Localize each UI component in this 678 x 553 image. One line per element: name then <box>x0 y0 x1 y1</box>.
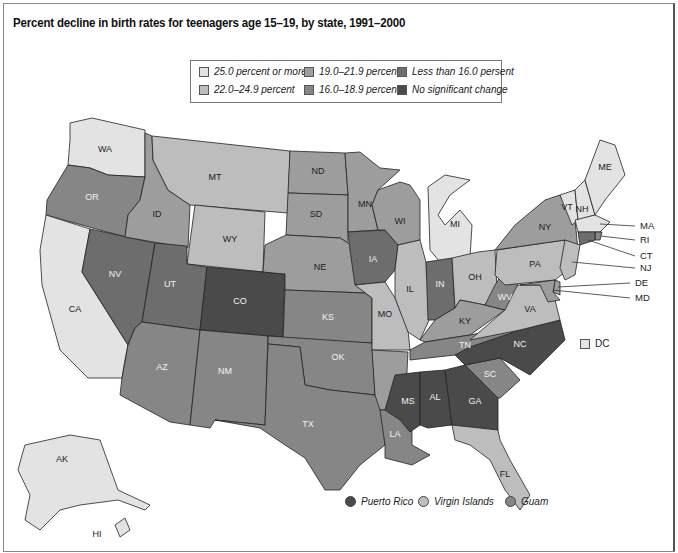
state-label-la: LA <box>389 429 400 439</box>
state-label-wy: WY <box>223 234 238 244</box>
state-label-ga: GA <box>468 396 481 406</box>
state-label-oh: OH <box>468 272 482 282</box>
state-label-wi: WI <box>395 216 406 226</box>
state-nm <box>190 330 268 428</box>
state-label-co: CO <box>233 296 247 306</box>
state-label-tn: TN <box>459 340 471 350</box>
state-label-in: IN <box>436 279 445 289</box>
state-label-ok: OK <box>331 352 344 362</box>
state-ri <box>595 232 602 240</box>
callout-label-md: MD <box>635 292 650 303</box>
state-label-mn: MN <box>358 199 372 209</box>
state-label-az: AZ <box>156 362 168 372</box>
callout-line-de <box>558 283 630 287</box>
callout-label-ri: RI <box>640 234 650 245</box>
state-label-id: ID <box>153 209 163 219</box>
dc-swatch <box>580 339 590 349</box>
state-label-ia: IA <box>369 254 378 264</box>
callout-line-ct <box>588 240 635 256</box>
state-az <box>120 322 200 425</box>
state-label-wv: WV <box>498 292 513 302</box>
state-hi <box>115 518 130 537</box>
callout-label-nj: NJ <box>640 262 652 273</box>
territory-dot <box>418 496 429 507</box>
state-label-nc: NC <box>514 339 527 349</box>
callout-label-ct: CT <box>640 250 653 261</box>
state-label-fl: FL <box>500 469 511 479</box>
state-label-ne: NE <box>314 262 327 272</box>
state-label-ut: UT <box>164 279 176 289</box>
callout-line-md <box>553 290 630 298</box>
state-label-ky: KY <box>459 316 471 326</box>
state-label-ak: AK <box>56 454 68 464</box>
us-map: WAORCANVIDMTWYUTCOAZNMNDSDNEKSOKTXMNIAMO… <box>0 0 678 553</box>
territory-label: Guam <box>521 496 548 507</box>
dc-legend: DC <box>580 338 609 349</box>
state-label-ks: KS <box>322 312 334 322</box>
state-label-mt: MT <box>209 172 222 182</box>
callout-line-nj <box>572 262 635 268</box>
state-ak <box>18 435 150 530</box>
state-label-vt: VT <box>561 202 573 212</box>
callout-label-ma: MA <box>640 220 655 231</box>
state-label-hi: HI <box>93 529 102 539</box>
state-label-mi: MI <box>450 219 460 229</box>
state-label-nd: ND <box>312 166 325 176</box>
state-label-al: AL <box>429 392 440 402</box>
territory-puerto-rico: Puerto Rico <box>345 496 413 507</box>
state-ct <box>578 232 595 245</box>
state-label-nv: NV <box>109 269 122 279</box>
state-label-il: IL <box>406 284 414 294</box>
territory-dot <box>505 496 516 507</box>
state-label-ny: NY <box>539 222 552 232</box>
territory-label: Puerto Rico <box>361 496 413 507</box>
callout-line-ri <box>601 236 635 240</box>
territory-dot <box>345 496 356 507</box>
state-label-ms: MS <box>401 396 415 406</box>
state-label-nh: NH <box>576 204 589 214</box>
state-label-sc: SC <box>484 369 497 379</box>
state-label-ca: CA <box>69 304 82 314</box>
territory-virgin-islands: Virgin Islands <box>418 496 494 507</box>
state-label-va: VA <box>524 304 535 314</box>
dc-label: DC <box>595 338 609 349</box>
state-label-wa: WA <box>98 144 112 154</box>
territory-guam: Guam <box>505 496 548 507</box>
state-label-sd: SD <box>310 209 323 219</box>
state-label-nm: NM <box>218 366 232 376</box>
state-label-me: ME <box>598 162 612 172</box>
territory-label: Virgin Islands <box>434 496 494 507</box>
state-label-pa: PA <box>529 259 540 269</box>
state-label-tx: TX <box>302 419 314 429</box>
state-label-mo: MO <box>378 309 393 319</box>
state-label-or: OR <box>85 192 99 202</box>
callout-label-de: DE <box>635 277 648 288</box>
